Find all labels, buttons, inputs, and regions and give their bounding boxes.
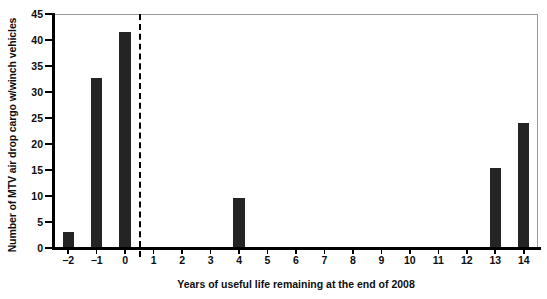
y-axis-tick-label: 25 — [3, 112, 43, 124]
bar — [518, 123, 529, 248]
y-axis-tick-label: 0 — [3, 242, 43, 254]
bar — [233, 198, 244, 248]
y-axis-tick-label: 10 — [3, 190, 43, 202]
y-axis-tick — [45, 247, 54, 249]
y-axis-tick — [45, 65, 54, 67]
bar — [91, 78, 102, 248]
y-axis-tick-label: 5 — [3, 216, 43, 228]
y-axis-tick — [45, 13, 54, 15]
bar — [119, 32, 130, 248]
y-axis-tick-label: 30 — [3, 86, 43, 98]
bar — [490, 168, 501, 248]
bar — [63, 232, 74, 248]
vertical-dashed-divider-icon — [139, 14, 141, 257]
y-axis-tick — [45, 39, 54, 41]
y-axis-tick — [45, 143, 54, 145]
y-axis-tick-label: 15 — [3, 164, 43, 176]
x-axis-tick-label: 14 — [507, 254, 541, 266]
y-axis-tick-label: 45 — [3, 8, 43, 20]
y-axis-tick — [45, 221, 54, 223]
y-axis-tick — [45, 195, 54, 197]
y-axis-line — [52, 13, 55, 250]
y-axis-tick — [45, 169, 54, 171]
y-axis-tick — [45, 91, 54, 93]
y-axis-tick-label: 40 — [3, 34, 43, 46]
y-axis-tick-label: 35 — [3, 60, 43, 72]
bar-series — [54, 14, 538, 248]
y-axis-tick-label: 20 — [3, 138, 43, 150]
y-axis-tick-labels: 051015202530354045 — [0, 0, 43, 299]
x-axis-title: Years of useful life remaining at the en… — [48, 278, 544, 290]
y-axis-tick — [45, 117, 54, 119]
bar-chart-figure: Number of MTV air drop cargo w/winch veh… — [0, 0, 547, 299]
